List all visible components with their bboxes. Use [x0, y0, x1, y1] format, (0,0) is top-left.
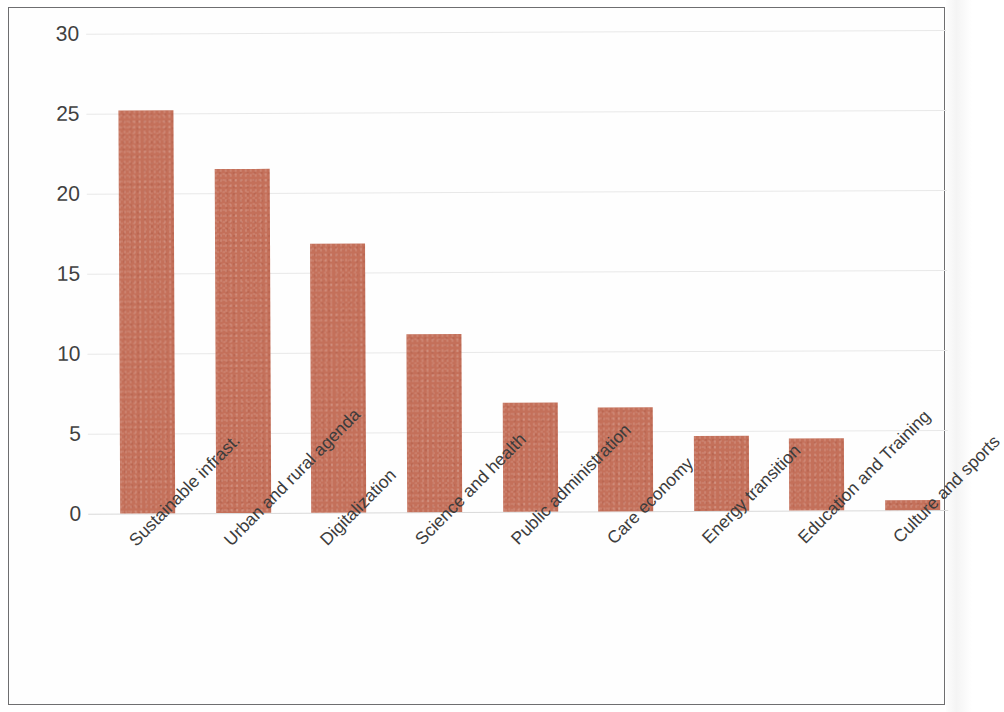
y-tick-label: 0 — [25, 503, 81, 524]
y-tick-label: 15 — [24, 263, 80, 284]
chart-ink-layer: 051015202530 Sustainable infrast.Urban a… — [9, 4, 949, 706]
bar-chart: 051015202530 Sustainable infrast.Urban a… — [9, 8, 946, 706]
y-axis-tick-labels: 051015202530 — [9, 4, 946, 8]
y-tick-label: 5 — [25, 423, 81, 444]
bar — [119, 110, 176, 513]
chart-frame-border: 051015202530 Sustainable infrast.Urban a… — [8, 7, 945, 705]
y-tick-label: 30 — [23, 23, 79, 44]
y-tick-label: 20 — [24, 183, 80, 204]
paper-right-edge — [946, 0, 972, 712]
bars-group — [9, 4, 946, 8]
bar — [310, 244, 366, 513]
x-axis-category-labels: Sustainable infrast.Urban and rural agen… — [9, 4, 946, 8]
bar — [406, 334, 462, 512]
x-axis-label: Culture and sports — [891, 433, 1004, 547]
gridline-30 — [86, 30, 946, 35]
y-tick-label: 25 — [23, 103, 79, 124]
gridlines-group — [9, 4, 946, 8]
gridline-25 — [86, 110, 946, 115]
y-tick-label: 10 — [24, 343, 80, 364]
